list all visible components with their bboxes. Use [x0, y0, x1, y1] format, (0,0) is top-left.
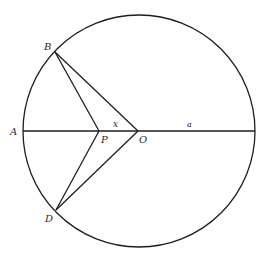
point-label-p: P: [100, 134, 108, 145]
segment-dp: [56, 131, 99, 210]
point-label-a: A: [9, 126, 17, 137]
segment-do: [56, 131, 138, 210]
diagram-canvas: B A P O D x a: [0, 0, 264, 258]
point-label-o: O: [139, 134, 147, 145]
segment-label-a: a: [187, 120, 192, 129]
segment-bo: [55, 52, 138, 131]
segment-label-x: x: [113, 119, 118, 129]
geometry-figure: B A P O D x a: [0, 0, 264, 258]
segment-bp: [55, 52, 99, 131]
point-label-b: B: [43, 41, 51, 52]
point-label-d: D: [44, 213, 53, 224]
